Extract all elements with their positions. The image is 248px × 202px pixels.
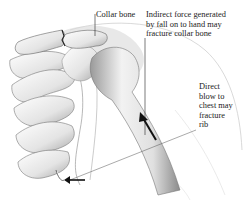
label-collar-bone: Collar bone: [96, 10, 135, 20]
direct-blow-leader: [70, 130, 196, 180]
arrow-head-icon: [64, 176, 70, 184]
anatomy-illustration: Collar bone Indirect force generated by …: [0, 0, 248, 202]
humerus: [90, 47, 180, 195]
label-direct-blow: Direct blow to chest may fracture rib: [199, 82, 233, 130]
label-indirect-force: Indirect force generated by fall on to h…: [146, 10, 226, 39]
